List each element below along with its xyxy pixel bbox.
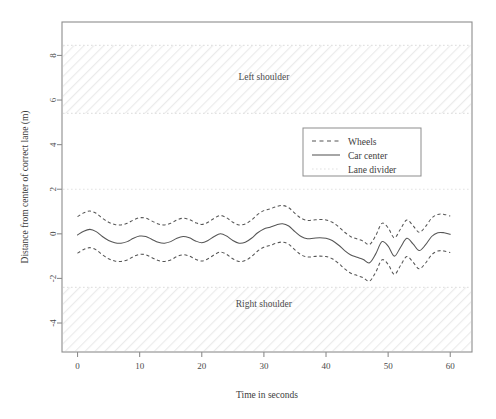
x-tick-label-2: 20 [197,361,207,371]
x-tick-label-1: 10 [135,361,145,371]
y-tick-label-6: -4 [48,319,58,327]
y-tick-label-2: 4 [48,142,58,147]
y-tick-label-0: 8 [48,53,58,58]
annotation-right-shoulder: Right shoulder [236,299,293,309]
chart-legend[interactable]: WheelsCar centerLane divider [303,128,421,176]
x-tick-label-4: 40 [322,361,332,371]
x-tick-label-0: 0 [75,361,80,371]
annotation-left-shoulder: Left shoulder [238,72,290,82]
y-axis-title: Distance from center of correct lane (m) [20,111,31,264]
legend-label: Wheels [348,137,377,147]
y-tick-label-1: 6 [48,97,58,102]
legend-label: Car center [348,151,388,161]
legend-label: Lane divider [348,165,397,175]
x-tick-label-3: 30 [259,361,269,371]
y-tick-label-4: 0 [48,231,58,236]
x-axis-title: Time in seconds [236,390,298,400]
x-tick-label-5: 50 [384,361,394,371]
chart-figure: 0102030405060 86420-2-4 Time in seconds … [0,0,496,419]
right-shoulder-band [63,287,471,351]
lane-position-chart: 0102030405060 86420-2-4 Time in seconds … [0,0,496,419]
x-tick-label-6: 60 [446,361,456,371]
y-tick-label-5: -2 [48,275,58,283]
y-tick-label-3: 2 [48,187,58,192]
